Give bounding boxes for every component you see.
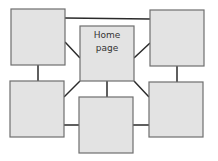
edge-home-to-bottom-left [64, 81, 80, 97]
node-bottom-center [79, 97, 133, 153]
site-map-diagram [0, 0, 218, 161]
home-page-label: Home page [80, 29, 134, 55]
home-label-line2: page [80, 42, 134, 55]
node-top-right [150, 10, 204, 66]
edge-home-to-top-left [65, 42, 80, 58]
node-bottom-left [10, 81, 64, 137]
edge-home-to-top-right [134, 43, 150, 58]
node-bottom-right [149, 82, 203, 137]
home-label-line1: Home [80, 29, 134, 42]
edge-top-left-to-top-right [65, 18, 150, 19]
edge-home-to-bottom-right [134, 81, 149, 97]
node-top-left [11, 9, 65, 65]
